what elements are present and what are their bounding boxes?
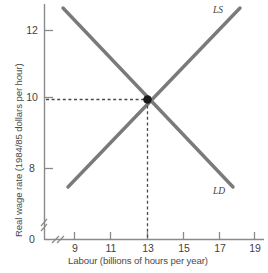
y-tick-label-8: 8 [24, 162, 40, 174]
y-tick-label-10: 10 [24, 91, 40, 103]
x-tick-label-11: 11 [102, 242, 120, 254]
labour-demand-curve-label: LD [213, 186, 225, 196]
chart-plot-area [0, 0, 268, 273]
x-axis-title: Labour (billions of hours per year) [68, 255, 208, 266]
x-tick-label-17: 17 [211, 242, 229, 254]
x-tick-label-19: 19 [246, 242, 264, 254]
x-axis-ticks [75, 232, 255, 240]
y-tick-label-0: 0 [24, 233, 40, 245]
labour-market-chart: 12 10 8 0 9 11 13 15 17 19 LS LD Real wa… [0, 0, 268, 273]
y-axis-title: Real wage rate (1984/85 dollars per hour… [13, 64, 24, 238]
y-tick-label-12: 12 [24, 24, 40, 36]
equilibrium-point-marker [143, 95, 152, 104]
x-tick-label-9: 9 [66, 242, 84, 254]
x-tick-label-15: 15 [175, 242, 193, 254]
labour-supply-curve-label: LS [213, 5, 223, 15]
labour-supply-curve [68, 8, 240, 187]
x-tick-label-13: 13 [139, 242, 157, 254]
